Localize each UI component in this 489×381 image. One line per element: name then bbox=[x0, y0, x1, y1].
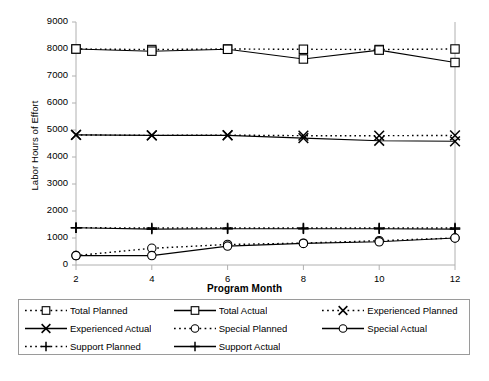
legend-swatch-square-icon bbox=[172, 304, 218, 317]
series-support-planned bbox=[71, 222, 461, 233]
series-experienced-actual bbox=[71, 130, 460, 146]
chart-svg bbox=[0, 0, 489, 300]
legend-item-special-actual[interactable]: Special Actual bbox=[318, 322, 467, 335]
legend-item-total-planned[interactable]: Total Planned bbox=[21, 304, 170, 317]
x-tick-label: 12 bbox=[435, 273, 475, 284]
legend-label: Experienced Planned bbox=[367, 305, 457, 316]
legend-item-special-planned[interactable]: Special Planned bbox=[170, 322, 319, 335]
legend-label: Total Planned bbox=[70, 305, 128, 316]
legend-item-support-actual[interactable]: Support Actual bbox=[170, 340, 319, 353]
series-total-planned bbox=[72, 45, 459, 54]
y-tick-label: 7000 bbox=[24, 69, 68, 80]
legend-swatch-plus-icon bbox=[172, 340, 218, 353]
chart-legend: Total PlannedTotal ActualExperienced Pla… bbox=[18, 299, 470, 355]
y-tick-label: 6000 bbox=[24, 96, 68, 107]
legend-label: Special Actual bbox=[367, 323, 427, 334]
legend-swatch-cross-icon bbox=[23, 322, 69, 335]
y-tick-label: 9000 bbox=[24, 15, 68, 26]
series-special-actual bbox=[72, 234, 459, 260]
legend-item-experienced-actual[interactable]: Experienced Actual bbox=[21, 322, 170, 335]
legend-label: Support Actual bbox=[219, 341, 281, 352]
y-tick-label: 5000 bbox=[24, 123, 68, 134]
legend-swatch-square-icon bbox=[23, 304, 69, 317]
legend-label: Experienced Actual bbox=[70, 323, 151, 334]
y-tick-label: 4000 bbox=[24, 150, 68, 161]
x-tick-label: 2 bbox=[56, 273, 96, 284]
legend-label: Support Planned bbox=[70, 341, 141, 352]
legend-swatch-circle-icon bbox=[172, 322, 218, 335]
legend-swatch-plus-icon bbox=[23, 340, 69, 353]
x-tick-label: 6 bbox=[208, 273, 248, 284]
legend-item-support-planned[interactable]: Support Planned bbox=[21, 340, 170, 353]
x-tick-label: 10 bbox=[359, 273, 399, 284]
x-axis-title: Program Month bbox=[0, 283, 489, 294]
y-tick-label: 0 bbox=[24, 258, 68, 269]
legend-label: Special Planned bbox=[219, 323, 288, 334]
x-tick-label: 8 bbox=[283, 273, 323, 284]
plot-area: Labor Hours of Effort Program Month 0100… bbox=[0, 0, 489, 300]
y-tick-label: 8000 bbox=[24, 42, 68, 53]
legend-swatch-circle-icon bbox=[320, 322, 366, 335]
legend-item-total-actual[interactable]: Total Actual bbox=[170, 304, 319, 317]
x-tick-label: 4 bbox=[132, 273, 172, 284]
legend-item-experienced-planned[interactable]: Experienced Planned bbox=[318, 304, 467, 317]
series-support-actual bbox=[71, 222, 461, 234]
legend-swatch-cross-icon bbox=[320, 304, 366, 317]
y-tick-label: 3000 bbox=[24, 177, 68, 188]
y-tick-label: 2000 bbox=[24, 204, 68, 215]
y-tick-label: 1000 bbox=[24, 231, 68, 242]
chart-figure: Labor Hours of Effort Program Month 0100… bbox=[0, 0, 489, 381]
y-axis-title: Labor Hours of Effort bbox=[29, 66, 40, 226]
series-total-actual bbox=[72, 45, 459, 67]
legend-label: Total Actual bbox=[219, 305, 268, 316]
